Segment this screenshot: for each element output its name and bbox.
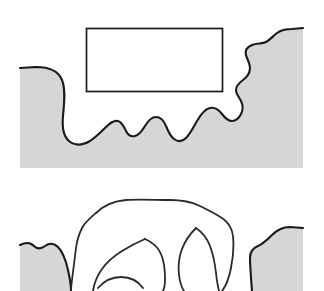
traced-outline-inner-right-outer [196,228,219,291]
top-panel [0,0,324,180]
bottom-panel-canvas [0,180,324,291]
shaded-region-right-fill [250,227,303,291]
traced-outline-lower-lobe [98,277,143,288]
traced-outline-inner-right [179,228,196,291]
bottom-panel [0,180,324,291]
top-panel-canvas [0,0,324,180]
shaded-region-right [250,227,303,291]
shaded-region-fill [20,28,303,168]
shaded-region-left [20,243,71,291]
overlay-rectangle [87,29,223,92]
traced-outline-inner-left [93,239,145,291]
shaded-region [20,28,303,168]
figure-root [0,0,324,291]
traced-outline-inner-center [145,239,165,291]
shaded-region-left-fill [20,243,71,291]
